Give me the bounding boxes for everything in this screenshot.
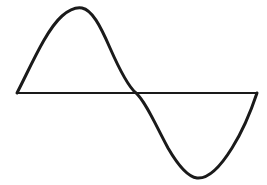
figure-container [0, 0, 267, 185]
sine-wave-chart [0, 0, 267, 185]
